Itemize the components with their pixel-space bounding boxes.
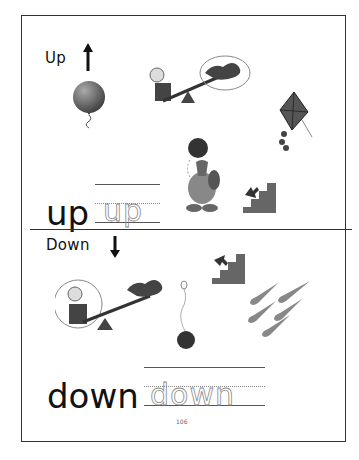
seesaw-icon xyxy=(55,278,170,338)
stairs-down-icon xyxy=(212,252,246,284)
model-word-down: down xyxy=(47,379,139,413)
arrow-down-icon xyxy=(110,236,120,258)
trace-top-line xyxy=(144,367,265,368)
trace-top-line xyxy=(95,184,160,185)
page-number: 106 xyxy=(176,418,187,425)
yoyo-icon xyxy=(176,280,198,350)
section-divider xyxy=(30,229,352,230)
model-word-up: up xyxy=(46,196,89,230)
stairs-up-icon xyxy=(243,181,277,213)
seesaw-icon xyxy=(143,55,253,120)
up-heading: Up xyxy=(45,49,66,67)
arrow-up-icon xyxy=(83,43,93,71)
kite-icon xyxy=(272,92,314,152)
balloon-icon xyxy=(72,80,108,130)
rain-icon xyxy=(248,281,314,337)
character-icon xyxy=(180,138,230,213)
trace-word-down[interactable]: down xyxy=(150,380,235,410)
down-heading: Down xyxy=(46,236,90,254)
trace-word-up[interactable]: up xyxy=(103,196,143,226)
